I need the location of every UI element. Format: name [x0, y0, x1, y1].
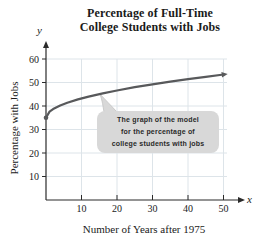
annotation-line-3: college students with jobs: [97, 138, 219, 150]
y-axis-arrowhead: [43, 41, 49, 48]
annotation-line-2: for the percentage of: [97, 126, 219, 138]
y-axis-symbol: y: [37, 24, 42, 36]
y-tick-label: 30: [29, 124, 39, 135]
y-tick-label: 40: [29, 101, 39, 112]
callout-pointer: [100, 94, 117, 112]
chart-title-line-1: Percentage of Full-Time: [35, 6, 265, 20]
y-tick-label: 50: [29, 77, 39, 88]
x-tick-label: 10: [77, 203, 87, 214]
annotation-line-1: The graph of the model: [97, 114, 219, 126]
x-axis-arrowhead: [238, 197, 245, 203]
x-axis-symbol: x: [247, 193, 252, 205]
y-tick-label: 20: [29, 148, 39, 159]
curve-start-dot: [44, 115, 49, 120]
x-tick-label: 40: [183, 203, 193, 214]
chart-title: Percentage of Full-Time College Students…: [35, 6, 265, 34]
y-axis-label: Percentage with Jobs: [8, 48, 20, 208]
y-tick-label: 10: [29, 171, 39, 182]
chart-title-line-2: College Students with Jobs: [35, 20, 265, 34]
x-tick-label: 50: [219, 203, 229, 214]
curve-end-arrowhead: [221, 72, 227, 78]
x-tick-label: 20: [112, 203, 122, 214]
chart-figure: 1020304050601020304050 Percentage of Ful…: [0, 0, 269, 250]
annotation-callout: The graph of the model for the percentag…: [97, 111, 219, 153]
x-axis-label: Number of Years after 1975: [44, 223, 244, 235]
x-tick-label: 30: [148, 203, 158, 214]
y-tick-label: 60: [29, 54, 39, 65]
